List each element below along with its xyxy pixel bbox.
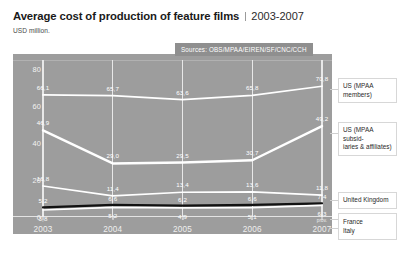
data-point-label: 13,4 xyxy=(176,181,188,188)
data-point-label: 5,1 xyxy=(248,212,257,219)
title-separator xyxy=(245,12,246,21)
data-point-label: 5,2 xyxy=(39,197,48,204)
chart-header: Average cost of production of feature fi… xyxy=(13,10,383,34)
legend-us-subsidiaries-line2: iaries & affiliates) xyxy=(343,143,392,152)
legend-united-kingdom[interactable]: United Kingdom xyxy=(338,192,397,209)
data-point-label: 4,9 xyxy=(178,212,187,219)
data-point-label: 66,1 xyxy=(37,83,49,90)
data-point-label: 3,8 xyxy=(39,214,48,221)
legend-us-subsidiaries-line1: US (MPAA subsid- xyxy=(343,126,392,143)
data-point-label: 65,7 xyxy=(107,84,119,91)
data-point-label: 63,6 xyxy=(176,88,188,95)
data-point-label: 6,2 xyxy=(178,195,187,202)
data-point-label: 13,6 xyxy=(246,180,258,187)
title-row: Average cost of production of feature fi… xyxy=(13,10,383,22)
data-point-label: 70,8 xyxy=(316,75,328,82)
sources-note: Sources: OBS/MPAA/EIREN/SF/CNC/CCH xyxy=(175,43,313,56)
data-point-label: 29,0 xyxy=(107,152,119,159)
data-point-label: 46,9 xyxy=(37,119,49,126)
plot-inner: 02040608020032004200520062007prov.66,165… xyxy=(13,54,332,234)
legend-italy-label: Italy xyxy=(343,226,392,235)
data-point-label: 11,8 xyxy=(316,184,328,191)
legend-france-italy[interactable]: France Italy xyxy=(338,213,397,240)
data-point-label: 65,8 xyxy=(246,84,258,91)
title-period: 2003-2007 xyxy=(251,10,304,22)
chart-subtitle: USD million. xyxy=(13,27,383,34)
data-point-label: 5,2 xyxy=(108,212,117,219)
data-point-label: 49,2 xyxy=(316,115,328,122)
page-title: Average cost of production of feature fi… xyxy=(13,10,239,22)
data-point-label: 6,6 xyxy=(108,194,117,201)
chart-plot-area: 02040608020032004200520062007prov.66,165… xyxy=(13,54,332,234)
series-lines xyxy=(13,54,332,234)
data-point-label: 30,7 xyxy=(246,149,258,156)
legend-uk-label: United Kingdom xyxy=(343,196,392,205)
data-point-label: 6,3 xyxy=(318,210,327,217)
data-point-label: 11,4 xyxy=(107,184,119,191)
data-point-label: 6,6 xyxy=(248,194,257,201)
legend-us-members-line2: members) xyxy=(343,91,392,100)
legend-france-label: France xyxy=(343,217,392,226)
legend-us-members[interactable]: US (MPAA members) xyxy=(338,78,397,103)
data-point-label: 16,8 xyxy=(37,174,49,181)
legend-us-members-line1: US (MPAA xyxy=(343,82,392,91)
legend-us-subsidiaries[interactable]: US (MPAA subsid- iaries & affiliates) xyxy=(338,122,397,156)
data-point-label: 7,4 xyxy=(318,193,327,200)
data-point-label: 29,5 xyxy=(176,151,188,158)
